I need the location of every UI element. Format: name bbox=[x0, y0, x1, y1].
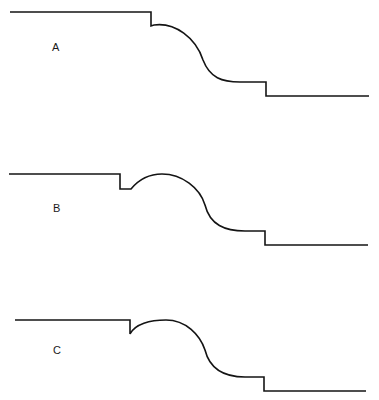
profile-c-path bbox=[15, 320, 366, 391]
profiles-svg bbox=[0, 0, 379, 400]
diagram-canvas: A B C bbox=[0, 0, 379, 400]
profile-a-path bbox=[10, 12, 369, 96]
profile-b-label: B bbox=[53, 203, 60, 214]
profile-b-path bbox=[9, 174, 368, 245]
profile-a-label: A bbox=[52, 42, 59, 53]
profile-c-label: C bbox=[53, 345, 61, 356]
